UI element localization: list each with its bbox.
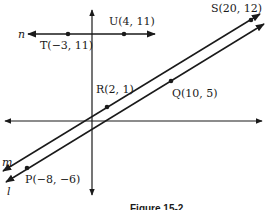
point-t-label: T(−3, 11) [40,40,93,51]
point-r [105,105,110,110]
line-l-label: l [7,186,11,197]
point-p [25,166,30,171]
point-p-label: P(−8, −6) [25,174,80,185]
line-m-label: m [2,157,12,168]
point-q [169,79,174,84]
point-s-label: S(20, 12) [211,3,262,14]
point-u-label: U(4, 11) [109,16,155,27]
figure-caption: Figure 15-2 [130,203,183,210]
point-s [249,18,254,23]
line-n-label: n [18,29,25,40]
point-q-label: Q(10, 5) [172,88,218,99]
point-t [66,32,71,37]
point-u [122,32,127,37]
point-r-label: R(2, 1) [96,84,134,95]
